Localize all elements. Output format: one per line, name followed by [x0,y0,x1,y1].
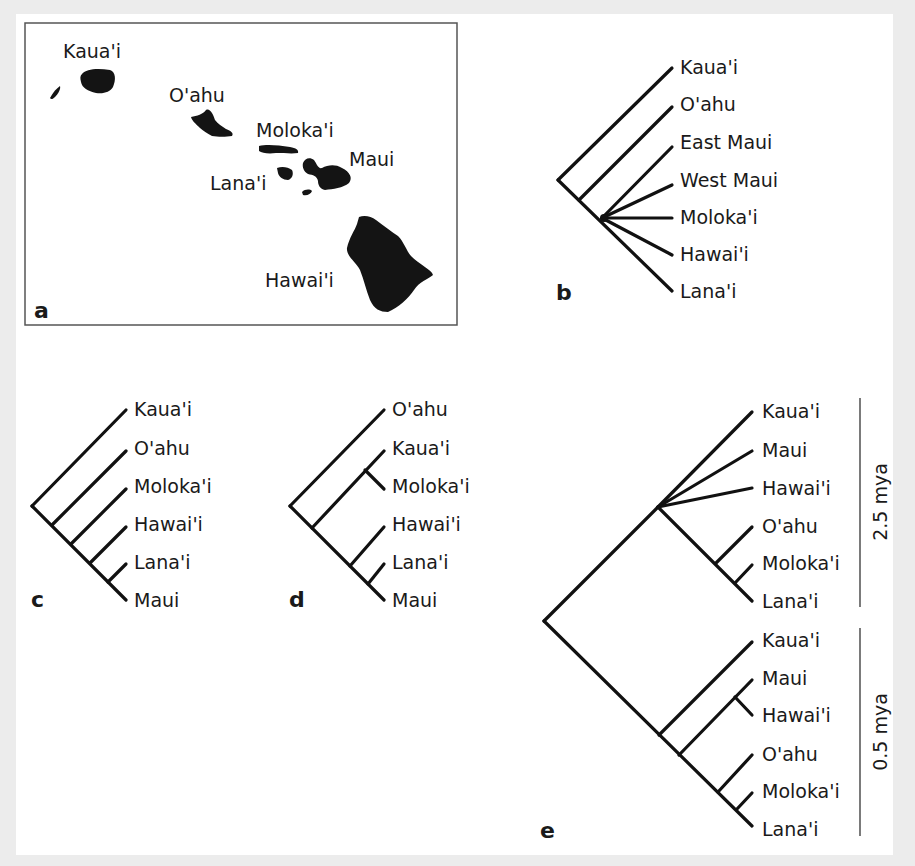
panel-label-e: e [540,818,555,843]
panel-label-b: b [556,280,572,305]
branch [558,180,672,291]
taxon-label: Lana'i [762,818,818,840]
taxon-label: Kaua'i [134,398,192,420]
branch [32,506,126,600]
taxon-label: Hawai'i [134,513,203,535]
branch [735,565,752,583]
branch [659,642,752,735]
scale-label-lower: 0.5 mya [869,693,891,771]
scale-label-upper: 2.5 mya [869,463,891,541]
branch [52,451,126,525]
branch [290,410,384,506]
branch [108,564,126,582]
panel-b-cladogram: Kaua'i O'ahu East Maui West Maui Moloka'… [556,56,778,305]
taxon-label: Kaua'i [762,400,820,422]
branch [602,147,672,218]
taxon-label: Lana'i [392,551,448,573]
map-label-lanai: Lana'i [210,172,266,194]
branch [350,527,384,566]
figure-canvas: Kaua'i O'ahu Moloka'i Maui Lana'i Hawai'… [0,0,915,866]
taxon-label: Maui [392,589,437,611]
taxon-label: Moloka'i [134,475,212,497]
panel-label-c: c [31,587,44,612]
branch [658,507,752,601]
taxon-label: O'ahu [762,743,818,765]
branch [579,107,672,200]
taxon-label: Hawai'i [392,513,461,535]
branch [312,451,384,528]
branch [737,793,752,809]
taxon-label: O'ahu [762,515,818,537]
map-label-molokai: Moloka'i [256,119,334,141]
branch [368,564,384,584]
taxon-label: Maui [134,589,179,611]
taxon-label: Moloka'i [762,552,840,574]
taxon-label: Maui [762,667,807,689]
taxon-label: Kaua'i [762,629,820,651]
branch [365,470,384,489]
taxon-label: Lana'i [680,280,736,302]
branch [679,680,752,755]
taxon-label: Hawai'i [680,243,749,265]
panel-e-cladogram: Kaua'i Maui Hawai'i O'ahu Moloka'i Lana'… [540,398,891,843]
taxon-label: Hawai'i [762,704,831,726]
panel-label-a: a [34,298,49,323]
panel-d-cladogram: O'ahu Kaua'i Moloka'i Hawai'i Lana'i Mau… [289,398,470,612]
branch [32,410,126,506]
root-branch-lower [544,621,752,826]
branch [602,218,672,255]
root-branch-upper [544,507,658,621]
panel-a-map: Kaua'i O'ahu Moloka'i Maui Lana'i Hawai'… [25,23,457,325]
taxon-label: Kaua'i [392,437,450,459]
branch [290,506,384,600]
branch [735,697,752,715]
taxon-label: Kaua'i [680,56,738,78]
taxon-label: Moloka'i [762,780,840,802]
taxon-label: O'ahu [680,93,736,115]
panel-c-cladogram: Kaua'i O'ahu Moloka'i Hawai'i Lana'i Mau… [31,398,212,612]
map-label-kauai: Kaua'i [63,40,121,62]
branch [602,185,672,218]
taxon-label: Hawai'i [762,477,831,499]
map-label-hawaii: Hawai'i [265,269,334,291]
branch [716,527,752,563]
taxon-label: East Maui [680,131,772,153]
taxon-label: Maui [762,439,807,461]
taxon-label: West Maui [680,169,778,191]
map-label-oahu: O'ahu [169,84,225,106]
taxon-label: Lana'i [134,551,190,573]
taxon-label: O'ahu [392,398,448,420]
taxon-label: Lana'i [762,590,818,612]
map-label-maui: Maui [349,148,394,170]
taxon-label: Moloka'i [392,475,470,497]
taxon-label: O'ahu [134,437,190,459]
polytomy-node [600,214,608,222]
branch [90,527,126,563]
taxon-label: Moloka'i [680,206,758,228]
panel-label-d: d [289,587,305,612]
branch [718,755,752,792]
